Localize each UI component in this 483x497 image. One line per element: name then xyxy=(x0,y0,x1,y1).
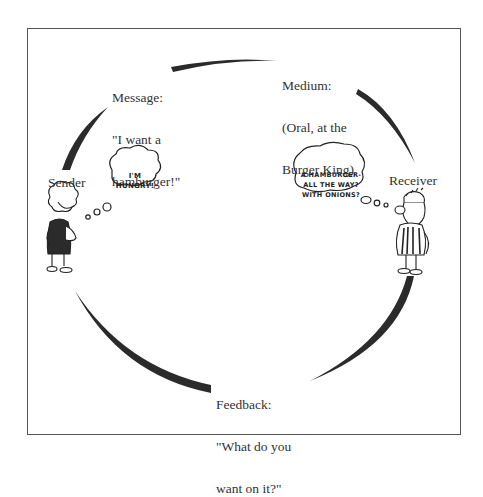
sender-thought-text: I'M HUNGRY! xyxy=(113,171,157,191)
sender-figure xyxy=(47,181,78,272)
feedback-label: Feedback: "What do you want on it?" xyxy=(216,370,291,497)
arc-sender-to-message xyxy=(62,107,108,170)
receiver-thought-text: A HAMBURGER- ALL THE WAY? WITH ONIONS? xyxy=(296,170,366,200)
arc-medium-to-receiver xyxy=(356,89,415,163)
arc-receiver-to-feedback xyxy=(310,276,414,381)
arc-message-to-medium xyxy=(171,59,277,72)
sender-label: Sender xyxy=(48,176,86,190)
arc-feedback-to-sender xyxy=(75,291,211,393)
receiver-label: Receiver xyxy=(389,174,437,188)
receiver-figure xyxy=(395,188,429,275)
